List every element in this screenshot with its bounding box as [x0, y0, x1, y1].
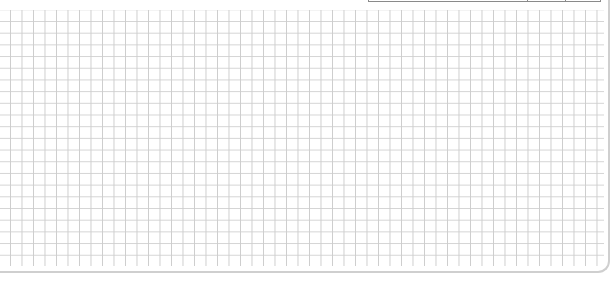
- canvas-area: [0, 0, 614, 288]
- top-table-cell: [528, 0, 566, 1]
- top-table-bottom-edge: [368, 0, 601, 2]
- top-table-cell: [369, 0, 528, 1]
- panel-border: [0, 0, 610, 273]
- top-table-cell: [566, 0, 600, 1]
